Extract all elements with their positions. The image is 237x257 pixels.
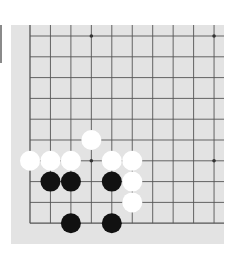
star-point <box>212 159 216 163</box>
star-point <box>90 159 94 163</box>
white-stone[interactable] <box>40 151 60 171</box>
white-stone[interactable] <box>61 151 81 171</box>
white-stone[interactable] <box>122 172 142 192</box>
star-point <box>90 34 94 38</box>
white-stone[interactable] <box>102 151 122 171</box>
black-stone[interactable] <box>102 172 122 192</box>
white-stone[interactable] <box>122 192 142 212</box>
black-stone[interactable] <box>61 213 81 233</box>
white-stone[interactable] <box>122 151 142 171</box>
white-stone[interactable] <box>20 151 40 171</box>
black-stone[interactable] <box>40 172 60 192</box>
go-board-grid[interactable] <box>0 0 237 257</box>
black-stone[interactable] <box>102 213 122 233</box>
black-stone[interactable] <box>61 172 81 192</box>
white-stone[interactable] <box>81 130 101 150</box>
star-point <box>212 34 216 38</box>
